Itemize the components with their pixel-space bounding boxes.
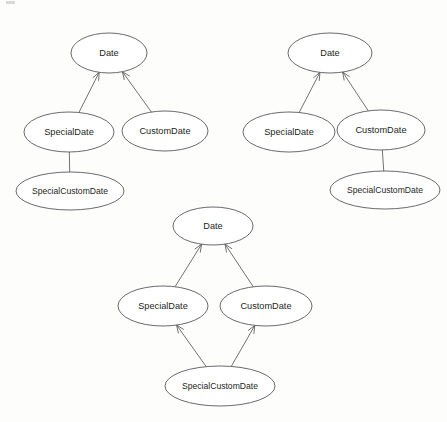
class-node[interactable]: CustomDate [220, 286, 312, 326]
class-node[interactable]: Date [288, 33, 372, 73]
class-node[interactable]: SpecialDate [118, 286, 208, 326]
class-node-label: SpecialDate [264, 127, 314, 137]
page-corner-mark [6, 1, 15, 4]
class-node[interactable]: Date [173, 207, 253, 245]
class-node[interactable]: CustomDate [122, 111, 208, 151]
class-node[interactable]: SpecialDate [24, 112, 114, 152]
class-node-label: SpecialDate [138, 301, 188, 311]
class-node-label: Date [203, 221, 222, 231]
class-node-label: SpecialCustomDate [182, 381, 258, 391]
diagram-page: DateSpecialDateCustomDateSpecialCustomDa… [0, 0, 447, 422]
class-node[interactable]: SpecialDate [243, 112, 335, 152]
class-node-label: CustomDate [240, 301, 291, 311]
class-node-label: Date [320, 48, 339, 58]
class-node-label: SpecialCustomDate [32, 186, 108, 196]
class-node-label: CustomDate [139, 126, 190, 136]
class-node-label: SpecialCustomDate [347, 185, 423, 195]
class-node[interactable]: SpecialCustomDate [165, 366, 275, 406]
class-node-label: SpecialDate [44, 127, 94, 137]
class-node-label: CustomDate [355, 125, 406, 135]
class-node[interactable]: SpecialCustomDate [330, 171, 440, 209]
class-node[interactable]: SpecialCustomDate [16, 172, 124, 210]
class-node[interactable]: CustomDate [337, 110, 425, 150]
class-hierarchy-diagram: DateSpecialDateCustomDateSpecialCustomDa… [0, 0, 447, 422]
class-node-label: Date [99, 48, 118, 58]
class-node[interactable]: Date [71, 33, 147, 73]
